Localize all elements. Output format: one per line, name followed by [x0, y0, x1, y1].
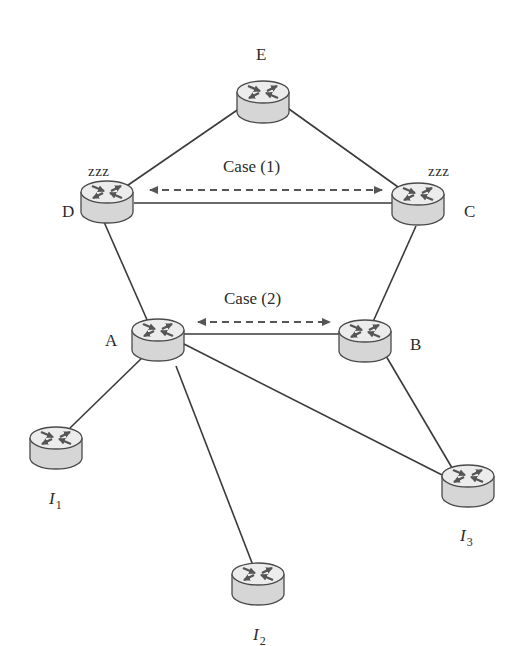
router-A-icon — [132, 319, 184, 361]
router-D-icon — [81, 181, 133, 223]
link-D-A — [104, 222, 148, 322]
node-label-A: A — [105, 332, 117, 349]
node-label-B: B — [410, 336, 421, 353]
node-label-I3-main: I — [460, 526, 466, 545]
node-label-I1-main: I — [49, 489, 55, 508]
node-label-C: C — [464, 203, 475, 220]
node-label-I3: I3 — [460, 527, 473, 544]
sleep-indicator-D: zzz — [88, 164, 109, 179]
router-I1-icon — [30, 427, 82, 469]
node-label-I1-sub: 1 — [56, 498, 62, 512]
node-label-I3-sub: 3 — [467, 535, 473, 549]
node-label-E: E — [256, 46, 266, 63]
case-2-label: Case (2) — [224, 290, 281, 307]
network-diagram — [0, 0, 524, 646]
link-A-I1 — [70, 354, 146, 428]
link-B-I3 — [386, 356, 458, 478]
link-C-B — [372, 226, 416, 324]
router-E-icon — [237, 81, 289, 123]
link-A-I3 — [184, 344, 452, 480]
node-label-I1: I1 — [49, 490, 62, 507]
router-I3-icon — [442, 465, 494, 507]
link-E-D — [118, 104, 246, 192]
node-label-I2: I2 — [253, 626, 266, 643]
node-label-I2-sub: 2 — [260, 634, 266, 646]
link-E-C — [282, 104, 405, 192]
link-A-I2 — [176, 366, 254, 568]
case-1-label: Case (1) — [223, 158, 280, 175]
node-label-D: D — [62, 203, 74, 220]
node-label-I2-main: I — [253, 625, 259, 644]
router-B-icon — [339, 320, 391, 362]
sleep-indicator-C: zzz — [428, 164, 449, 179]
router-I2-icon — [232, 563, 284, 605]
router-C-icon — [392, 183, 444, 225]
